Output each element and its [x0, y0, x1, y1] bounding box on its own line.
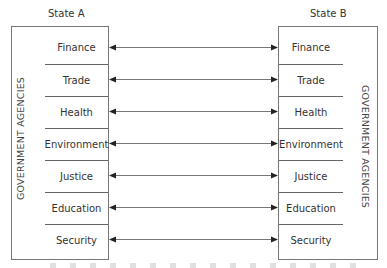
- state-a-divider: [45, 128, 108, 129]
- state-b-agency-health: Health: [279, 96, 343, 128]
- double-arrow-icon: [109, 44, 278, 51]
- double-arrow-icon: [109, 140, 278, 147]
- state-a-divider: [45, 192, 108, 193]
- state-a-agency-health: Health: [45, 96, 108, 128]
- state-b-divider: [279, 160, 343, 161]
- state-a-divider: [45, 64, 108, 65]
- state-b-divider: [279, 128, 343, 129]
- double-arrow-icon: [109, 108, 278, 115]
- state-b-divider: [279, 64, 343, 65]
- state-b-divider: [279, 192, 343, 193]
- state-a-divider: [45, 160, 108, 161]
- state-b-divider: [279, 96, 343, 97]
- state-b-divider: [279, 224, 343, 225]
- state-a-title: State A: [48, 8, 85, 19]
- state-a-agency-finance: Finance: [45, 31, 108, 63]
- state-a-divider: [45, 96, 108, 97]
- state-b-agency-education: Education: [279, 192, 343, 224]
- state-a-agency-justice: Justice: [45, 160, 108, 192]
- double-arrow-icon: [109, 236, 278, 243]
- state-b-title: State B: [310, 8, 347, 19]
- state-a-side-label: GOVERNMENT AGENCIES: [15, 85, 26, 200]
- double-arrow-icon: [109, 204, 278, 211]
- cropped-caption: [50, 263, 370, 268]
- state-b-agency-environment: Environment: [279, 128, 343, 160]
- state-b-agency-justice: Justice: [279, 160, 343, 192]
- double-arrow-icon: [109, 76, 278, 83]
- double-arrow-icon: [109, 172, 278, 179]
- state-b-agency-finance: Finance: [279, 31, 343, 63]
- state-a-agency-education: Education: [45, 192, 108, 224]
- state-a-agency-environment: Environment: [45, 128, 108, 160]
- state-b-agency-trade: Trade: [279, 64, 343, 96]
- state-b-side-label: GOVERNMENT AGENCIES: [360, 85, 371, 200]
- state-a-divider: [45, 224, 108, 225]
- state-b-agency-security: Security: [279, 224, 343, 256]
- state-a-agency-trade: Trade: [45, 64, 108, 96]
- state-a-agency-security: Security: [45, 224, 108, 256]
